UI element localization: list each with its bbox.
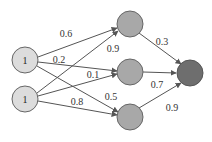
hidden-node-1: [117, 11, 143, 37]
output-node: [177, 60, 203, 86]
hidden-node-3: [117, 104, 143, 130]
weight-in2-h3: 0.8: [71, 96, 84, 107]
weight-h1-out: 0.3: [156, 36, 169, 47]
neural-network-diagram: 1 1 0.6 0.2 0.9 0.1 0.5 0.8 0.3 0.7 0.9: [0, 0, 212, 142]
edge-in1-h2: [38, 62, 117, 71]
weight-h3-out: 0.9: [166, 102, 179, 113]
weight-in2-h1: 0.9: [107, 43, 120, 54]
edge-h2-out: [143, 72, 176, 73]
edge-in1-h1: [38, 28, 117, 57]
input-node-1-label: 1: [23, 55, 28, 66]
weight-in2-h2: 0.1: [87, 69, 100, 80]
weight-in1-h2: 0.2: [53, 54, 66, 65]
weight-in1-h3: 0.5: [105, 91, 118, 102]
edge-in2-h1: [37, 31, 118, 93]
weight-h2-out: 0.7: [151, 79, 164, 90]
weight-in1-h1: 0.6: [60, 28, 73, 39]
input-node-2-label: 1: [23, 94, 28, 105]
hidden-node-2: [117, 59, 143, 85]
